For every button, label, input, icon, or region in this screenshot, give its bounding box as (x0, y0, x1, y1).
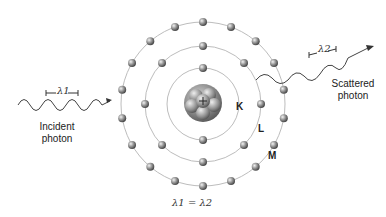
electron-l (240, 59, 248, 67)
electron-m (227, 23, 235, 31)
scattered-photon-label: Scattered photon (320, 78, 386, 102)
electron-m (146, 163, 154, 171)
electron-m (171, 177, 179, 185)
electron-m (128, 141, 136, 149)
scattered-arrow-icon (366, 45, 374, 51)
electron-m (118, 86, 126, 94)
shell-label-l: L (258, 123, 264, 134)
electron-l (257, 100, 265, 108)
nucleus-icon (184, 84, 222, 122)
electron-m (146, 37, 154, 45)
lambda2-label: λ2 (318, 43, 331, 54)
equation-label: λ1 = λ2 (172, 197, 212, 208)
electron-m (199, 18, 207, 26)
shell-label-k: K (236, 101, 243, 112)
electron-l (199, 42, 207, 50)
incident-photon-label: Incident photon (22, 121, 92, 145)
electron-m (128, 59, 136, 67)
incident-wave (18, 100, 110, 111)
shell-label-m: M (268, 150, 276, 161)
electron-m (118, 114, 126, 122)
electron-l (141, 100, 149, 108)
electron-l (199, 158, 207, 166)
electron-m (252, 37, 260, 45)
electron-l (158, 59, 166, 67)
electron-m (270, 141, 278, 149)
electron-m (171, 23, 179, 31)
photon-scattering-diagram: λ1 λ2 Incident photon Scattered photon K… (0, 0, 386, 217)
atom-svg (0, 0, 386, 217)
electron-l (158, 141, 166, 149)
lambda1-label: λ1 (57, 85, 70, 96)
incident-arrow-icon (106, 98, 112, 103)
electron-m (227, 177, 235, 185)
electron-k (199, 136, 207, 144)
electron-m (280, 114, 288, 122)
electron-l (240, 141, 248, 149)
electron-m (270, 59, 278, 67)
electron-m (280, 86, 288, 94)
electron-m (252, 163, 260, 171)
electron-m (199, 182, 207, 190)
electron-k (199, 64, 207, 72)
